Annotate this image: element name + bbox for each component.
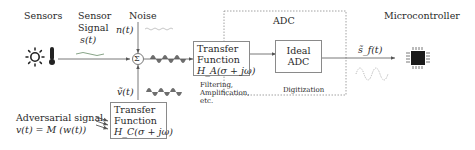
- transfer-a-line1: Transfer: [197, 43, 246, 54]
- adversarial-filtered-symbol: ṽ(t): [117, 86, 134, 97]
- sensor-signal-symbol: s(t): [80, 34, 96, 45]
- ideal-adc-line2: ADC: [276, 56, 321, 67]
- adversarial-signal-label: Adversarial signal: [16, 112, 103, 123]
- signal-burst-adversarial: [146, 88, 182, 96]
- digitization-label: Digitization: [283, 86, 324, 95]
- noise-wave: [145, 28, 173, 30]
- output-wave: [356, 68, 388, 80]
- transfer-a-line2: Function: [197, 54, 246, 65]
- signal-burst-mixed: [150, 55, 186, 63]
- sum-symbol: Σ: [134, 53, 140, 64]
- ideal-adc-block: Ideal ADC: [275, 40, 322, 73]
- transfer-a-line3: H_A(σ + jω): [197, 65, 246, 76]
- adversarial-signal-formula: v(t) = M (w(t)): [16, 124, 86, 135]
- sensor-signal-label-2: Signal: [78, 22, 108, 33]
- sensor-signal-wave: [76, 53, 104, 56]
- noise-symbol: n(t): [116, 24, 133, 35]
- thermometer-icon: [49, 47, 55, 65]
- adc-group-label: ADC: [273, 15, 295, 26]
- sun-icon: [26, 48, 44, 66]
- ideal-adc-line1: Ideal: [276, 45, 321, 56]
- transfer-c-line2: Function: [114, 115, 163, 126]
- output-signal-symbol: s̃_f(t): [358, 44, 382, 55]
- sensor-signal-label-1: Sensor: [78, 10, 111, 21]
- noise-label: Noise: [129, 10, 157, 21]
- transfer-a-caption-3: etc.: [200, 97, 213, 106]
- microcontroller-label: Microcontroller: [384, 10, 460, 21]
- sensors-label: Sensors: [24, 10, 62, 21]
- microchip-icon: [406, 47, 430, 69]
- transfer-c-line1: Transfer: [114, 104, 163, 115]
- transfer-function-c-block: Transfer Function H_C(σ + jω): [110, 102, 167, 139]
- transfer-c-line3: H_C(σ + jω): [114, 126, 163, 137]
- transfer-function-a-block: Transfer Function H_A(σ + jω): [193, 41, 250, 76]
